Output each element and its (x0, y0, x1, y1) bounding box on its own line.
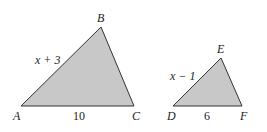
vertex-label-e: E (216, 42, 225, 56)
vertex-label-b: B (97, 11, 105, 25)
side-label-de: x − 1 (169, 69, 195, 83)
vertex-label-f: F (239, 109, 248, 123)
similar-triangles-diagram: A B C x + 3 10 D E F x − 1 6 (0, 0, 267, 132)
diagram-svg: A B C x + 3 10 D E F x − 1 6 (0, 0, 267, 132)
side-label-df: 6 (204, 109, 210, 123)
vertex-label-d: D (166, 109, 176, 123)
side-label-ac: 10 (73, 109, 85, 123)
side-label-ab: x + 3 (34, 53, 60, 67)
vertex-label-c: C (132, 109, 141, 123)
vertex-label-a: A (12, 109, 21, 123)
